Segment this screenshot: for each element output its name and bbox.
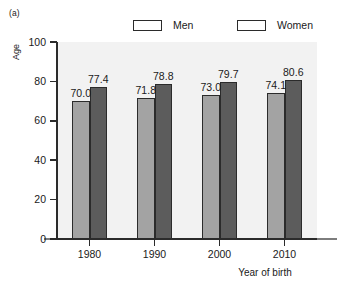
y-tick-label-60: 60 xyxy=(2,115,46,126)
bar-value-men-1980: 70.0 xyxy=(58,87,104,99)
x-tick-label-1990: 1990 xyxy=(125,248,185,260)
bar-men-1980 xyxy=(72,101,90,239)
y-tick-100 xyxy=(50,41,57,43)
bar-value-men-1990: 71.8 xyxy=(123,84,169,96)
x-tick-2010 xyxy=(284,239,286,246)
bar-value-women-1990: 78.8 xyxy=(140,70,186,82)
panel-label: (a) xyxy=(9,8,20,18)
x-tick-label-1980: 1980 xyxy=(60,248,120,260)
x-axis-title: Year of birth xyxy=(195,267,335,279)
bar-women-1990 xyxy=(155,84,173,239)
bar-value-men-2000: 73.0 xyxy=(188,81,234,93)
bar-value-men-2010: 74.1 xyxy=(253,79,299,91)
legend-item-men: Men xyxy=(133,16,193,34)
y-axis-line xyxy=(56,42,58,239)
bar-women-2000 xyxy=(220,82,238,239)
bar-men-2000 xyxy=(202,95,220,239)
legend-item-women: Women xyxy=(237,16,313,34)
legend-swatch-men xyxy=(133,20,162,31)
y-tick-60 xyxy=(50,120,57,122)
figure-panel-a: (a) Men Women Age Year of birth 0 20 40 … xyxy=(0,0,343,288)
y-tick-label-0: 0 xyxy=(2,234,46,245)
bar-women-1980 xyxy=(90,87,108,239)
chart-legend: Men Women xyxy=(133,16,333,34)
bar-men-2010 xyxy=(267,93,285,239)
x-tick-1990 xyxy=(154,239,156,246)
y-tick-label-100: 100 xyxy=(2,37,46,48)
x-tick-2000 xyxy=(219,239,221,246)
y-tick-label-80: 80 xyxy=(2,76,46,87)
y-tick-40 xyxy=(50,159,57,161)
legend-label-women: Women xyxy=(277,19,313,31)
bar-value-women-1980: 77.4 xyxy=(75,73,121,85)
y-tick-label-40: 40 xyxy=(2,155,46,166)
x-tick-1980 xyxy=(89,239,91,246)
legend-label-men: Men xyxy=(173,19,193,31)
legend-swatch-women xyxy=(237,20,266,31)
y-tick-0 xyxy=(50,238,57,240)
y-tick-20 xyxy=(50,199,57,201)
x-tick-label-2000: 2000 xyxy=(190,248,250,260)
bar-men-1990 xyxy=(137,98,155,239)
y-tick-label-20: 20 xyxy=(2,194,46,205)
bar-value-women-2010: 80.6 xyxy=(270,66,316,78)
bar-women-2010 xyxy=(285,80,303,239)
bar-value-women-2000: 79.7 xyxy=(205,68,251,80)
x-tick-label-2010: 2010 xyxy=(255,248,315,260)
y-tick-80 xyxy=(50,81,57,83)
